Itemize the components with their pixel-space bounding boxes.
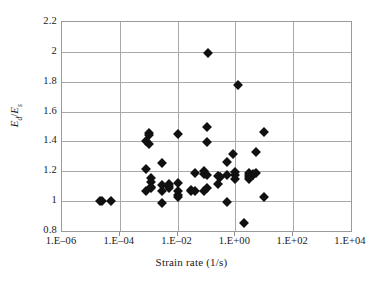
data-point-marker — [202, 137, 212, 147]
data-point-marker — [173, 129, 183, 139]
data-point-marker — [203, 48, 213, 58]
data-point-marker — [251, 147, 261, 157]
data-point-marker — [158, 158, 168, 168]
x-axis-tick-label: 1.E–04 — [103, 235, 134, 247]
data-point-marker — [222, 157, 232, 167]
x-axis-tick-label: 1.E+00 — [219, 235, 250, 247]
x-axis-tick-label: 1.E+04 — [334, 235, 365, 247]
y-axis-title-numerator-subscript: d — [15, 117, 24, 121]
gridline-horizontal — [62, 82, 351, 83]
data-point-marker — [239, 218, 249, 228]
data-point-marker — [202, 122, 212, 132]
y-axis-tick-label: 1 — [3, 195, 57, 205]
data-point-marker — [222, 197, 232, 207]
data-point-marker — [106, 196, 116, 206]
y-axis-tick-label: 2.2 — [3, 16, 57, 26]
y-axis-title-denominator-subscript: s — [15, 104, 24, 107]
x-axis-tick-labels: 1.E–061.E–041.E–021.E+001.E+021.E+04 — [61, 235, 352, 249]
gridline-vertical — [235, 22, 236, 231]
data-point-marker — [141, 164, 151, 174]
data-point-marker — [228, 149, 238, 159]
x-axis-tick-label: 1.E–06 — [46, 235, 77, 247]
gridline-horizontal — [62, 112, 351, 113]
x-axis-tick-label: 1.E+02 — [277, 235, 308, 247]
y-axis-tick-label: 1.2 — [3, 165, 57, 175]
y-axis-tick-label: 0.8 — [3, 225, 57, 235]
data-point-marker — [259, 127, 269, 137]
x-axis-tick-label: 1.E–02 — [161, 235, 192, 247]
plot-area — [61, 21, 352, 232]
y-axis-title-denominator: E — [8, 107, 20, 114]
y-axis-title: Ed/Es — [8, 76, 23, 156]
x-axis-title: Strain rate (1/s) — [0, 256, 383, 268]
data-point-marker — [158, 198, 168, 208]
gridline-vertical — [120, 22, 121, 231]
y-axis-title-numerator: E — [8, 120, 20, 127]
y-axis-tick-label: 2 — [3, 46, 57, 56]
scatter-chart-figure: 2.221.81.61.41.210.8 1.E–061.E–041.E–021… — [0, 0, 383, 282]
gridline-vertical — [293, 22, 294, 231]
